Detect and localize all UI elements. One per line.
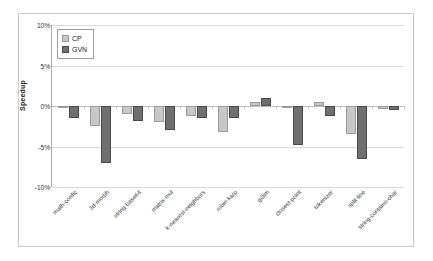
y-axis-tick-labels: 10%5%0%-5%-10% bbox=[0, 25, 50, 187]
bar-gvn-6 bbox=[261, 98, 271, 106]
y-axis-tick-mark bbox=[47, 66, 51, 67]
bar-gvn-7 bbox=[293, 106, 303, 145]
bar-cp-5 bbox=[218, 106, 228, 132]
bar-cp-6 bbox=[250, 102, 260, 106]
bar-cp-2 bbox=[122, 106, 132, 114]
bar-gvn-8 bbox=[325, 106, 335, 116]
plot-area bbox=[52, 25, 404, 187]
legend-label: GVN bbox=[72, 46, 87, 53]
bar-cp-4 bbox=[186, 106, 196, 116]
x-axis-tick-mark bbox=[148, 106, 149, 109]
bar-cp-9 bbox=[346, 106, 356, 134]
y-axis-tick-mark bbox=[47, 147, 51, 148]
x-axis-tick-mark bbox=[84, 106, 85, 109]
bar-cp-1 bbox=[90, 106, 100, 126]
bar-cp-3 bbox=[154, 106, 164, 122]
x-axis-tick-label: split-line bbox=[346, 189, 366, 209]
bar-gvn-4 bbox=[197, 106, 207, 118]
y-axis-tick-label: 5% bbox=[4, 62, 50, 69]
gridline bbox=[52, 25, 404, 26]
x-axis-tick-labels: math-cordic3d-morphstring-base64matrix-m… bbox=[52, 187, 404, 257]
x-axis-tick-label: string-base64 bbox=[112, 189, 142, 219]
bar-gvn-9 bbox=[357, 106, 367, 159]
bar-gvn-2 bbox=[133, 106, 143, 121]
chart-container: Speedup 10%5%0%-5%-10% math-cordic3d-mor… bbox=[0, 0, 433, 261]
y-axis-tick-label: 0% bbox=[4, 103, 50, 110]
x-axis-tick-mark bbox=[244, 106, 245, 109]
x-axis-tick-label: closest-point bbox=[274, 189, 302, 217]
x-axis-tick-mark bbox=[180, 106, 181, 109]
bar-gvn-0 bbox=[69, 106, 79, 118]
bar-gvn-3 bbox=[165, 106, 175, 130]
y-axis-tick-label: -5% bbox=[4, 143, 50, 150]
y-axis-tick-mark bbox=[47, 25, 51, 26]
bar-gvn-5 bbox=[229, 106, 239, 118]
x-axis-tick-label: math-cordic bbox=[52, 189, 78, 215]
x-axis-tick-label: gclim bbox=[256, 189, 270, 203]
legend-swatch-icon bbox=[62, 46, 69, 53]
x-axis-tick-mark bbox=[276, 106, 277, 109]
x-axis-tick-label: matrix-mul bbox=[150, 189, 174, 213]
x-axis-tick-mark bbox=[372, 106, 373, 109]
bar-gvn-1 bbox=[101, 106, 111, 163]
x-axis-tick-mark bbox=[404, 106, 405, 109]
bar-gvn-10 bbox=[389, 106, 399, 110]
legend-swatch-icon bbox=[62, 35, 69, 42]
x-axis-tick-mark bbox=[308, 106, 309, 109]
gridline bbox=[52, 66, 404, 67]
bar-cp-8 bbox=[314, 102, 324, 106]
y-axis-tick-label: -10% bbox=[4, 184, 50, 191]
chart-legend: CPGVN bbox=[57, 29, 94, 59]
y-axis-tick-mark bbox=[47, 106, 51, 107]
bar-cp-10 bbox=[378, 106, 388, 109]
y-axis-tick-mark bbox=[47, 187, 51, 188]
y-axis-tick-label: 10% bbox=[4, 22, 50, 29]
x-axis-tick-label: 3d-morph bbox=[88, 189, 110, 211]
legend-item-gvn[interactable]: GVN bbox=[62, 44, 87, 55]
x-axis-tick-mark bbox=[116, 106, 117, 109]
x-axis-tick-label: robin-karp bbox=[215, 189, 238, 212]
bar-cp-7 bbox=[282, 106, 292, 108]
legend-label: CP bbox=[72, 35, 82, 42]
x-axis-tick-mark bbox=[212, 106, 213, 109]
bar-cp-0 bbox=[58, 106, 68, 108]
legend-item-cp[interactable]: CP bbox=[62, 33, 87, 44]
x-axis-tick-mark bbox=[340, 106, 341, 109]
x-axis-tick-label: tokenizer bbox=[313, 189, 334, 210]
